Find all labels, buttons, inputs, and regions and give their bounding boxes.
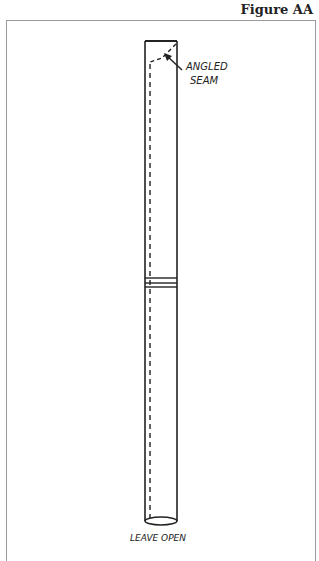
open-end-ellipse (145, 517, 177, 525)
label-leave-open: LEAVE OPEN (130, 533, 186, 543)
label-angled: ANGLED (185, 61, 228, 72)
label-seam: SEAM (190, 75, 219, 86)
angled-seam-line (150, 44, 176, 62)
